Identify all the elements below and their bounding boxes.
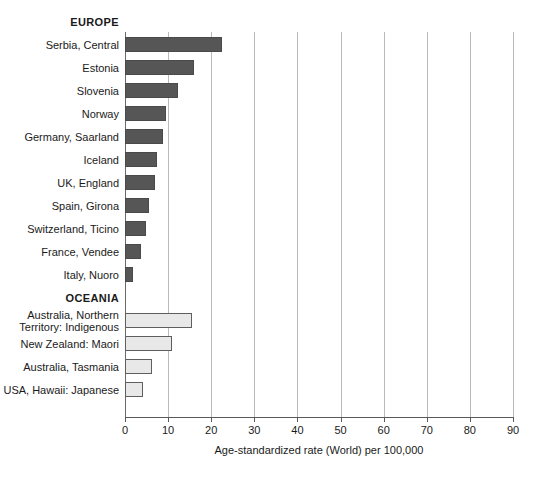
bar[interactable] bbox=[125, 313, 192, 328]
bar[interactable] bbox=[125, 382, 143, 397]
tick-mark bbox=[168, 417, 169, 422]
bar[interactable] bbox=[125, 267, 133, 282]
tick-label: 90 bbox=[493, 424, 533, 436]
section-header-row: OCEANIA bbox=[0, 286, 535, 309]
bar[interactable] bbox=[125, 37, 222, 52]
tick-label: 30 bbox=[234, 424, 274, 436]
bar-row: Switzerland, Ticino bbox=[0, 217, 535, 240]
tick-label: 60 bbox=[364, 424, 404, 436]
bar[interactable] bbox=[125, 244, 141, 259]
tick-mark bbox=[341, 417, 342, 422]
category-label: UK, England bbox=[0, 171, 119, 194]
category-label: Norway bbox=[0, 102, 119, 125]
bar-row: Australia, Tasmania bbox=[0, 355, 535, 378]
bar-row: France, Vendee bbox=[0, 240, 535, 263]
bar[interactable] bbox=[125, 175, 155, 190]
category-label: Estonia bbox=[0, 56, 119, 79]
tick-label: 50 bbox=[321, 424, 361, 436]
bar[interactable] bbox=[125, 221, 146, 236]
tick-mark bbox=[211, 417, 212, 422]
bar-row: Estonia bbox=[0, 56, 535, 79]
tick-mark bbox=[297, 417, 298, 422]
section-header-label: EUROPE bbox=[0, 10, 119, 33]
bar[interactable] bbox=[125, 198, 149, 213]
category-label: Spain, Girona bbox=[0, 194, 119, 217]
tick-label: 40 bbox=[277, 424, 317, 436]
category-label: Australia, Tasmania bbox=[0, 355, 119, 378]
bar-row: Australia, Northern Territory: Indigenou… bbox=[0, 309, 535, 332]
section-header-label: OCEANIA bbox=[0, 286, 119, 309]
category-label: Slovenia bbox=[0, 79, 119, 102]
bar-row: Serbia, Central bbox=[0, 33, 535, 56]
category-label: Switzerland, Ticino bbox=[0, 217, 119, 240]
bar-row: USA, Hawaii: Japanese bbox=[0, 378, 535, 401]
bar-row: New Zealand: Maori bbox=[0, 332, 535, 355]
tick-label: 0 bbox=[105, 424, 145, 436]
category-label: Australia, Northern Territory: Indigenou… bbox=[0, 309, 119, 332]
bar-row: Spain, Girona bbox=[0, 194, 535, 217]
tick-label: 80 bbox=[450, 424, 490, 436]
bar[interactable] bbox=[125, 359, 152, 374]
bar-row: Norway bbox=[0, 102, 535, 125]
tick-mark bbox=[125, 417, 126, 422]
bar[interactable] bbox=[125, 129, 163, 144]
bar[interactable] bbox=[125, 152, 157, 167]
bar-row: Slovenia bbox=[0, 79, 535, 102]
category-label: New Zealand: Maori bbox=[0, 332, 119, 355]
category-label: Germany, Saarland bbox=[0, 125, 119, 148]
bar-row: Italy, Nuoro bbox=[0, 263, 535, 286]
x-axis-title: Age-standardized rate (World) per 100,00… bbox=[125, 444, 513, 456]
bar-row: UK, England bbox=[0, 171, 535, 194]
tick-label: 20 bbox=[191, 424, 231, 436]
category-label: France, Vendee bbox=[0, 240, 119, 263]
x-axis-line bbox=[125, 417, 513, 418]
category-label: USA, Hawaii: Japanese bbox=[0, 378, 119, 401]
bar[interactable] bbox=[125, 106, 166, 121]
category-label: Italy, Nuoro bbox=[0, 263, 119, 286]
tick-mark bbox=[470, 417, 471, 422]
bar[interactable] bbox=[125, 336, 172, 351]
bar-chart: EUROPESerbia, CentralEstoniaSloveniaNorw… bbox=[0, 0, 535, 479]
tick-label: 10 bbox=[148, 424, 188, 436]
tick-mark bbox=[254, 417, 255, 422]
category-label: Iceland bbox=[0, 148, 119, 171]
section-header-row: EUROPE bbox=[0, 10, 535, 33]
tick-mark bbox=[513, 417, 514, 422]
bar-row: Germany, Saarland bbox=[0, 125, 535, 148]
tick-mark bbox=[384, 417, 385, 422]
tick-mark bbox=[427, 417, 428, 422]
category-label: Serbia, Central bbox=[0, 33, 119, 56]
bar-row: Iceland bbox=[0, 148, 535, 171]
tick-label: 70 bbox=[407, 424, 447, 436]
bar[interactable] bbox=[125, 60, 194, 75]
bar[interactable] bbox=[125, 83, 178, 98]
